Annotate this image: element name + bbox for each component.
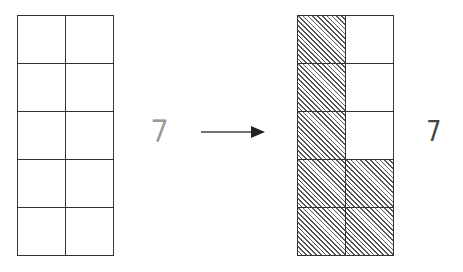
right-grid-cell-r4-c2-shaded <box>346 160 394 208</box>
right-grid-cell-r1-c1-shaded <box>298 16 346 64</box>
right-grid-cell-r4-c1-shaded <box>298 160 346 208</box>
left-grid-cell-r2-c2 <box>66 64 114 112</box>
left-grid-cell-r4-c2 <box>66 160 114 208</box>
left-grid-cell-r2-c1 <box>18 64 66 112</box>
number-label-left: 7 <box>151 118 169 146</box>
left-grid-cell-r4-c1 <box>18 160 66 208</box>
right-grid-cell-r1-c2 <box>346 16 394 64</box>
shaded-grid <box>297 15 394 256</box>
empty-grid <box>17 15 114 256</box>
right-grid-cell-r2-c1-shaded <box>298 64 346 112</box>
left-grid-cell-r1-c1 <box>18 16 66 64</box>
left-grid-cell-r3-c2 <box>66 112 114 160</box>
right-grid-cell-r5-c1-shaded <box>298 208 346 256</box>
right-grid-cell-r3-c1-shaded <box>298 112 346 160</box>
left-grid-cell-r3-c1 <box>18 112 66 160</box>
left-grid-cell-r1-c2 <box>66 16 114 64</box>
right-arrow-icon <box>201 124 267 140</box>
left-grid-cell-r5-c2 <box>66 208 114 256</box>
right-grid-cell-r2-c2 <box>346 64 394 112</box>
right-grid-cell-r5-c2-shaded <box>346 208 394 256</box>
left-grid-cell-r5-c1 <box>18 208 66 256</box>
number-label-right: 7 <box>426 118 441 146</box>
right-grid-cell-r3-c2 <box>346 112 394 160</box>
